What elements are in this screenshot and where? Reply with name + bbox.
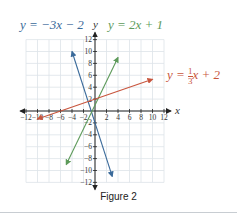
red-prefix: y =	[167, 67, 188, 82]
y-tick-label: −12	[80, 178, 92, 187]
label-green-line: y = 2x + 1	[108, 17, 163, 33]
x-tick-label: 6	[128, 113, 132, 122]
y-tick-label: 6	[88, 71, 92, 80]
label-red-line: y = 13x + 2	[167, 67, 220, 86]
y-tick-label: 12	[85, 35, 93, 44]
y-tick-label: −6	[84, 142, 92, 151]
x-tick-label: 2	[105, 113, 109, 122]
y-tick-label: −10	[80, 166, 92, 175]
x-tick-label: −6	[57, 113, 65, 122]
red-suffix: x + 2	[193, 67, 221, 82]
label-blue-line: y = −3x − 2	[20, 17, 84, 33]
y-tick-label: −4	[84, 130, 92, 139]
y-tick-label: −8	[84, 154, 92, 163]
x-axis-label: x	[174, 104, 180, 116]
x-tick-label: −12	[20, 113, 32, 122]
y-axis-label: y	[92, 18, 98, 30]
y-tick-label: 4	[88, 83, 92, 92]
divider	[0, 212, 237, 213]
x-tick-label: 12	[160, 113, 168, 122]
x-tick-label: 4	[116, 113, 120, 122]
y-tick-label: 8	[88, 59, 92, 68]
y-tick-label: 10	[85, 47, 93, 56]
x-tick-label: 10	[149, 113, 157, 122]
x-tick-label: 8	[139, 113, 143, 122]
x-tick-label: −4	[68, 113, 76, 122]
figure-caption: Figure 2	[0, 191, 237, 202]
